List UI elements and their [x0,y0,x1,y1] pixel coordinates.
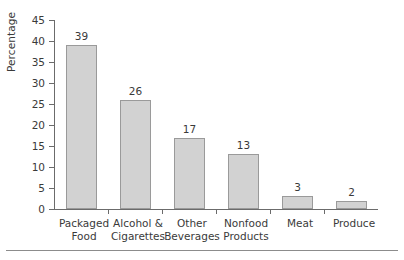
bar-chart: Percentage 051015202530354045 3926171332… [0,0,404,260]
bar [66,45,97,209]
bar [282,196,313,209]
y-tick-mark [49,125,54,126]
y-tick-label: 25 [5,99,45,109]
bar-value-label: 2 [324,187,379,198]
x-tick-mark [162,209,163,214]
bar-value-label: 26 [108,86,163,97]
x-tick-mark [324,209,325,214]
y-tick-label: 5 [5,183,45,193]
bottom-divider [6,250,398,251]
y-axis-line [54,20,55,210]
bar-value-label: 13 [216,140,271,151]
y-tick-label: 45 [5,15,45,25]
y-tick-mark [49,20,54,21]
bar-value-label: 3 [270,182,325,193]
x-tick-mark [270,209,271,214]
y-tick-label: 20 [5,120,45,130]
y-tick-label: 15 [5,141,45,151]
y-tick-mark [49,167,54,168]
x-category-label: Produce [319,217,389,230]
bar [336,201,367,209]
y-tick-label: 40 [5,36,45,46]
y-tick-mark [49,209,54,210]
bar-value-label: 17 [162,124,217,135]
y-tick-label: 10 [5,162,45,172]
y-tick-mark [49,62,54,63]
y-tick-mark [49,83,54,84]
y-tick-mark [49,188,54,189]
bar [174,138,205,209]
bar-value-label: 39 [54,31,109,42]
y-tick-mark [49,146,54,147]
x-tick-mark [108,209,109,214]
bar [228,154,259,209]
y-tick-label: 0 [5,204,45,214]
y-tick-label: 30 [5,78,45,88]
y-tick-label: 35 [5,57,45,67]
bar [120,100,151,209]
y-tick-mark [49,104,54,105]
x-tick-mark [216,209,217,214]
